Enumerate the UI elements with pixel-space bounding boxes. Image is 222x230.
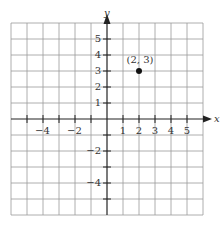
x-tick-4: 4 [168,125,174,136]
y-tick-m4: −4 [86,177,101,188]
x-tick-m2: −2 [67,125,82,136]
y-axis-label: y [103,7,110,18]
x-axis-label: x [214,113,220,124]
y-tick-1: 1 [95,97,101,108]
y-tick-5: 5 [95,33,101,44]
y-tick-2: 2 [95,81,101,92]
point-label: (2, 3) [127,54,154,65]
y-tick-4: 4 [95,49,101,60]
coordinate-plane: x y −4 −2 1 2 3 4 5 5 4 3 2 1 −2 −4 (2, … [0,0,222,230]
x-tick-2: 2 [136,125,142,136]
x-tick-m4: −4 [35,125,50,136]
axes [11,19,207,215]
y-tick-m2: −2 [86,145,101,156]
y-tick-3: 3 [95,65,101,76]
x-axis-arrow-icon [203,116,212,123]
x-tick-1: 1 [120,125,126,136]
x-tick-5: 5 [184,125,190,136]
x-tick-3: 3 [152,125,158,136]
data-point [136,68,142,74]
